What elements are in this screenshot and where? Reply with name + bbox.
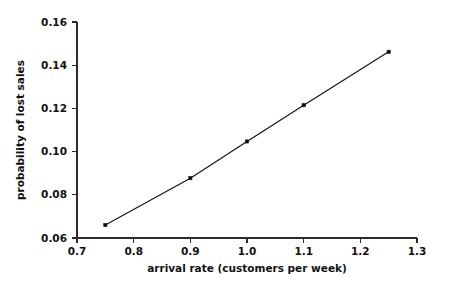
data-point: [302, 104, 305, 107]
x-tick-label: 0.7: [68, 245, 87, 257]
data-point: [245, 140, 248, 143]
x-tick-label: 0.9: [181, 245, 200, 257]
x-tick-label: 1.1: [294, 245, 313, 257]
data-point: [387, 50, 390, 53]
x-tick-label: 1.0: [238, 245, 257, 257]
y-tick-label: 0.06: [41, 232, 67, 244]
x-tick-label: 1.3: [408, 245, 427, 257]
x-tick-label: 1.2: [351, 245, 370, 257]
y-axis-title: probability of lost sales: [14, 60, 26, 200]
chart-figure: 0.06 0.08 0.10 0.12 0.14 0.16 0.7 0.8 0.…: [0, 0, 468, 281]
y-tick-label: 0.08: [41, 188, 67, 200]
data-point: [189, 177, 192, 180]
y-tick-label: 0.14: [41, 59, 67, 71]
x-axis-title: arrival rate (customers per week): [147, 262, 347, 274]
y-tick-label: 0.16: [41, 16, 67, 28]
data-point: [104, 223, 107, 226]
chart-background: [0, 0, 468, 281]
y-tick-label: 0.12: [41, 102, 67, 114]
y-tick-label: 0.10: [41, 145, 67, 157]
x-tick-label: 0.8: [124, 245, 143, 257]
line-chart: 0.06 0.08 0.10 0.12 0.14 0.16 0.7 0.8 0.…: [0, 0, 468, 281]
